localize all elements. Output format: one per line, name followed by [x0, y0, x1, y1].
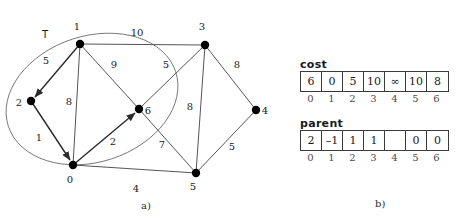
cost-array: 6 0 5 10 ∞ 10 8	[300, 71, 449, 92]
edge-1-2-directed	[35, 44, 80, 97]
cost-index: 2	[342, 91, 363, 106]
cost-index: 6	[426, 91, 447, 106]
edge-2-0-directed	[31, 101, 70, 160]
edge-weight-6-5: 7	[159, 139, 165, 150]
parent-cell: 1	[343, 131, 364, 150]
parent-index: 0	[300, 150, 321, 165]
edge-1-6	[80, 44, 139, 109]
cost-index-row: 0 1 2 3 4 5 6	[300, 91, 447, 106]
edge-weight-3-4: 8	[234, 59, 240, 70]
parent-table-title: parent	[300, 117, 343, 130]
cost-cell: 0	[322, 72, 343, 91]
edge-weight-0-5: 4	[133, 183, 139, 194]
parent-array: 2 –1 1 1 0 0	[300, 130, 449, 151]
edge-3-6	[139, 45, 205, 109]
node-label-2: 2	[16, 97, 22, 108]
edge-weight-1-3: 10	[131, 27, 144, 38]
cost-cell: 5	[343, 72, 364, 91]
parent-index: 3	[363, 150, 384, 165]
node-label-1: 1	[74, 21, 80, 32]
node-label-3: 3	[199, 21, 205, 32]
node-label-0: 0	[67, 174, 73, 185]
parent-index: 5	[405, 150, 426, 165]
cost-cell: 10	[406, 72, 427, 91]
node-label-5: 5	[190, 181, 196, 192]
parent-cell: 0	[406, 131, 427, 150]
edge-weight-3-5: 8	[187, 101, 193, 112]
parent-cell: 2	[301, 131, 322, 150]
parent-index: 2	[342, 150, 363, 165]
graph-node-4[interactable]	[252, 106, 260, 114]
caption-a: a)	[141, 200, 151, 211]
graph-node-0[interactable]	[69, 161, 77, 169]
edge-0-5	[73, 165, 196, 173]
tables-panel-b: cost 6 0 5 10 ∞ 10 8 0 1 2 3 4 5 6 paren…	[290, 0, 461, 220]
edge-3-5	[196, 45, 205, 173]
cost-cell: 6	[301, 72, 322, 91]
caption-b: b)	[375, 198, 385, 209]
graph-node-1[interactable]	[76, 40, 84, 48]
parent-cell: 0	[427, 131, 448, 150]
figure-container: 0 1 2 3 4 5 6 T 5 8 9 10 1 2 4 5 8 8 7 5…	[0, 0, 461, 220]
parent-index: 4	[384, 150, 405, 165]
edge-3-4	[205, 45, 256, 110]
tree-label-t: T	[41, 29, 49, 40]
edge-1-0	[73, 44, 80, 165]
cost-cell: 8	[427, 72, 448, 91]
graph-node-6[interactable]	[135, 105, 143, 113]
edge-weight-0-6: 2	[110, 136, 116, 147]
edge-1-3	[80, 44, 205, 45]
graph-node-5[interactable]	[192, 169, 200, 177]
node-label-6: 6	[145, 105, 151, 116]
cost-index: 3	[363, 91, 384, 106]
edge-0-6-directed	[73, 113, 135, 165]
edge-weight-3-6: 5	[163, 59, 169, 70]
cost-cell: 10	[364, 72, 385, 91]
edge-weight-1-2: 5	[43, 55, 49, 66]
parent-cell: 1	[364, 131, 385, 150]
parent-index: 1	[321, 150, 342, 165]
graph-node-2[interactable]	[27, 97, 35, 105]
node-label-4: 4	[262, 105, 268, 116]
cost-index: 4	[384, 91, 405, 106]
parent-index: 6	[426, 150, 447, 165]
edge-weight-1-6: 9	[111, 59, 117, 70]
parent-cell	[385, 131, 406, 150]
edge-4-5	[196, 110, 256, 173]
parent-cell: –1	[322, 131, 343, 150]
graph-node-3[interactable]	[201, 41, 209, 49]
cost-table-title: cost	[300, 58, 327, 71]
cost-index: 1	[321, 91, 342, 106]
cost-index: 5	[405, 91, 426, 106]
edge-weight-2-0: 1	[36, 132, 42, 143]
parent-index-row: 0 1 2 3 4 5 6	[300, 150, 447, 165]
edge-weight-4-5: 5	[229, 141, 235, 152]
edge-weight-1-0: 8	[66, 96, 72, 107]
cost-cell: ∞	[385, 72, 406, 91]
cost-index: 0	[300, 91, 321, 106]
graph-panel-a: 0 1 2 3 4 5 6 T 5 8 9 10 1 2 4 5 8 8 7 5	[0, 0, 290, 220]
